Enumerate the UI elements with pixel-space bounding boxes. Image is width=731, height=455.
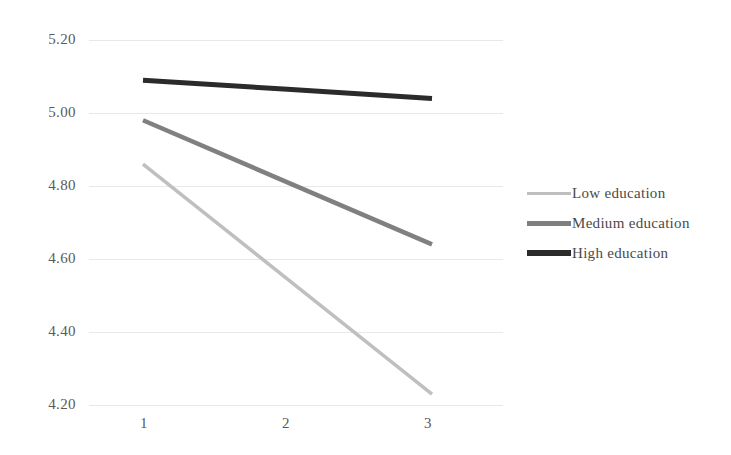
line-chart: 5.20 5.00 4.80 4.60 4.40 4.20 1 2 3 Low … [0, 0, 731, 455]
y-tick-label: 5.20 [16, 31, 76, 48]
x-tick-label: 3 [408, 415, 448, 432]
legend-swatch-low-education [527, 192, 571, 195]
series-line-low-education [143, 164, 432, 394]
legend-item-high-education[interactable]: High education [527, 238, 727, 268]
y-tick-label: 4.20 [16, 396, 76, 413]
series-line-high-education [143, 80, 432, 98]
legend-item-medium-education[interactable]: Medium education [527, 208, 727, 238]
y-tick-label: 4.80 [16, 177, 76, 194]
chart-legend: Low education Medium education High educ… [527, 178, 727, 268]
legend-swatch-high-education [527, 250, 571, 256]
gridlines [89, 41, 503, 406]
legend-item-low-education[interactable]: Low education [527, 178, 727, 208]
x-tick-label: 2 [266, 415, 306, 432]
y-tick-label: 4.40 [16, 323, 76, 340]
y-tick-label: 5.00 [16, 104, 76, 121]
legend-label-medium-education: Medium education [571, 215, 690, 232]
legend-swatch-medium-education [527, 221, 571, 226]
series-line-medium-education [143, 120, 432, 244]
legend-label-low-education: Low education [571, 185, 665, 202]
x-tick-label: 1 [124, 415, 164, 432]
y-tick-label: 4.60 [16, 250, 76, 267]
legend-label-high-education: High education [571, 245, 668, 262]
series-lines [143, 80, 432, 394]
